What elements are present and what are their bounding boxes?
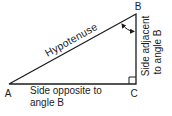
vertex-b-label: B [135, 1, 142, 12]
diagram-labels: B A C Hypotenuse Side opposite to angle … [5, 1, 163, 108]
vertex-c-label: C [130, 88, 137, 99]
diagram-linework [9, 14, 136, 84]
triangle-outline [9, 14, 136, 84]
vertex-a-label: A [5, 88, 12, 99]
adjacent-side-label-line2: to angle B [152, 29, 163, 74]
angle-b-arrow-icon [122, 24, 134, 32]
right-angle-marker [129, 77, 136, 84]
right-triangle-diagram: B A C Hypotenuse Side opposite to angle … [0, 0, 172, 116]
opposite-side-label-line2: angle B [30, 97, 64, 108]
adjacent-side-label-line1: Side adjacent [140, 15, 151, 76]
diagram-svg: B A C Hypotenuse Side opposite to angle … [0, 0, 172, 116]
opposite-side-label-line1: Side opposite to [30, 85, 102, 96]
